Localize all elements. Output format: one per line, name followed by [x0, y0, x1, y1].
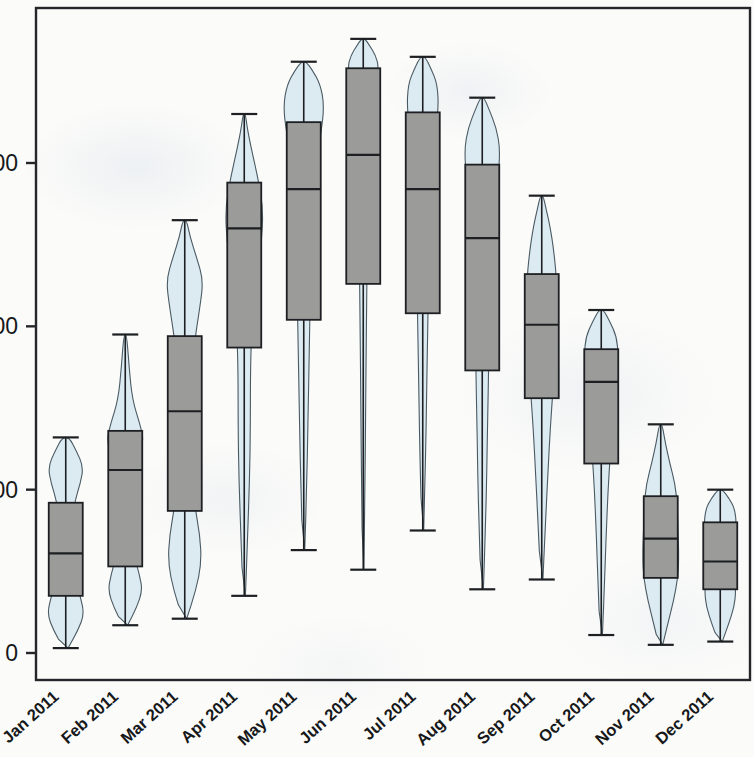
violin-box-plot-figure: 0100200300 Jan 2011Feb 2011Mar 2011Apr 2… [0, 0, 754, 757]
x-tick-label: Jun 2011 [295, 687, 359, 747]
box-iqr [644, 496, 678, 578]
x-tick-label: Dec 2011 [652, 687, 717, 748]
plot-frame [36, 8, 750, 680]
box-iqr [49, 503, 83, 596]
y-tick-label: 200 [0, 313, 18, 339]
violin-box-group[interactable] [284, 62, 323, 550]
box-iqr [525, 274, 559, 398]
violin-box-group[interactable] [643, 424, 679, 645]
x-tick-label: Nov 2011 [592, 687, 657, 748]
x-tick-label: Aug 2011 [412, 687, 478, 749]
box-iqr [287, 122, 321, 320]
violin-box-group[interactable] [226, 114, 263, 596]
box-iqr [703, 522, 737, 589]
violin-box-group[interactable] [48, 437, 83, 648]
violin-box-group[interactable] [167, 220, 202, 619]
violin-box-group[interactable] [584, 310, 618, 635]
violin-box-group[interactable] [108, 335, 143, 626]
violin-series-layer [48, 39, 737, 648]
x-tick-label: Sep 2011 [473, 687, 538, 748]
box-iqr [168, 336, 202, 511]
box-iqr [108, 431, 142, 567]
plot-svg: 0100200300 Jan 2011Feb 2011Mar 2011Apr 2… [0, 0, 754, 757]
box-iqr [227, 183, 261, 348]
violin-box-group[interactable] [406, 57, 440, 531]
x-tick-label: Oct 2011 [535, 687, 597, 746]
y-tick-label: 0 [5, 640, 18, 666]
x-tick-label: Jul 2011 [359, 687, 419, 743]
x-tick-label: Jan 2011 [0, 687, 62, 746]
y-tick-label: 100 [0, 477, 18, 503]
y-tick-label: 300 [0, 150, 18, 176]
violin-box-group[interactable] [346, 39, 380, 570]
box-iqr [346, 68, 380, 284]
box-iqr [584, 349, 618, 463]
x-axis-tick-labels: Jan 2011Feb 2011Mar 2011Apr 2011May 2011… [0, 687, 716, 749]
violin-box-group[interactable] [703, 490, 737, 642]
violin-box-group[interactable] [525, 196, 559, 580]
y-axis-ticks: 0100200300 [0, 150, 36, 666]
box-iqr [465, 165, 499, 371]
axes-frame [36, 8, 750, 680]
x-tick-label: Mar 2011 [117, 687, 181, 747]
x-tick-label: Apr 2011 [177, 687, 240, 746]
x-tick-label: Feb 2011 [57, 687, 121, 747]
violin-box-group[interactable] [465, 98, 499, 590]
box-iqr [406, 112, 440, 313]
x-tick-label: May 2011 [234, 687, 300, 749]
